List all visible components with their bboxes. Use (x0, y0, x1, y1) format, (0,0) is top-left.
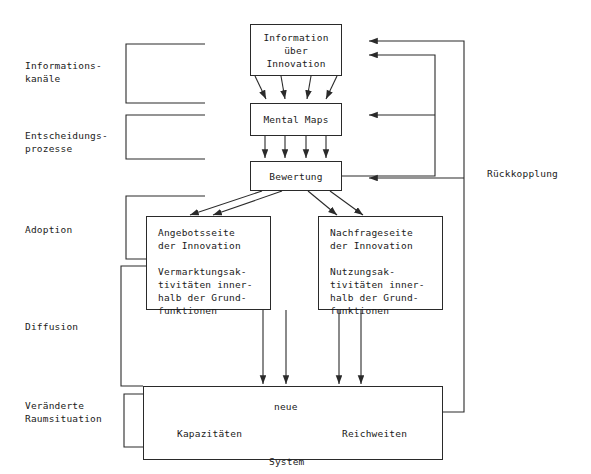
node-nachfrageseite[interactable]: Nachfrageseite der Innovation Nutzungsak… (318, 216, 443, 310)
label-rueckkopplung: Rückkopplung (487, 168, 558, 181)
node-nachfrageseite-heading: Nachfrageseite der Innovation (330, 226, 442, 252)
arrows-nachfrageseite-to-system (339, 310, 361, 384)
spacer (330, 252, 442, 265)
stage-label-informationskanaele: Informations- kanäle (25, 60, 102, 85)
diagram-canvas: Informations- kanäle Entscheidungs- proz… (0, 0, 591, 474)
node-mental-maps[interactable]: Mental Maps (250, 103, 342, 136)
node-neue-kapazitaeten-reichweiten-system[interactable]: neue Kapazitäten Reichweiten System (143, 386, 443, 460)
spacer (158, 252, 270, 265)
bracket-informationskanaele (126, 44, 205, 103)
system-label-system: System (269, 455, 305, 468)
stage-label-adoption: Adoption (25, 224, 72, 237)
node-bewertung-label: Bewertung (269, 170, 322, 183)
stage-label-diffusion: Diffusion (25, 321, 78, 334)
node-bewertung[interactable]: Bewertung (250, 161, 342, 191)
node-angebotsseite-body: Vermarktungsak- tivitäten inner- halb de… (158, 265, 270, 317)
node-angebotsseite[interactable]: Angebotsseite der Innovation Vermarktung… (146, 216, 271, 310)
arrows-information-to-mental-maps (255, 76, 337, 99)
arrows-angebotsseite-to-system (263, 310, 286, 384)
arrows-bewertung-to-sides (190, 191, 363, 215)
stage-label-veraenderte-raumsituation: Veränderte Raumsituation (25, 400, 102, 425)
system-label-kapazitaeten: Kapazitäten (177, 427, 242, 440)
stage-label-entscheidungsprozesse: Entscheidungs- prozesse (25, 130, 108, 155)
node-mental-maps-label: Mental Maps (263, 113, 328, 126)
bracket-entscheidungsprozesse (126, 115, 205, 159)
node-information-ueber-innovation[interactable]: Information über Innovation (250, 24, 342, 76)
node-angebotsseite-heading: Angebotsseite der Innovation (158, 226, 270, 252)
system-label-neue: neue (274, 400, 298, 413)
bracket-diffusion (121, 266, 146, 386)
node-nachfrageseite-body: Nutzungsak- tivitäten inner- halb der Gr… (330, 265, 442, 317)
bracket-veraenderte-raumsituation (124, 394, 143, 447)
system-label-reichweiten: Reichweiten (342, 427, 407, 440)
arrows-mental-maps-to-bewertung (265, 136, 326, 158)
node-information-label: Information über Innovation (263, 31, 328, 70)
